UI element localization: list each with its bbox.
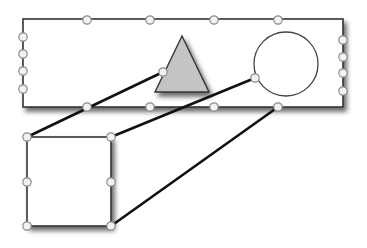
rectangle-right-handle[interactable] xyxy=(339,53,347,61)
square-mid-right-handle[interactable] xyxy=(107,178,115,186)
rectangle-left-handle[interactable] xyxy=(19,50,27,58)
rectangle-top-handle[interactable] xyxy=(146,16,154,24)
rectangle-right-handle[interactable] xyxy=(339,87,347,95)
rectangle-left-handle[interactable] xyxy=(19,85,27,93)
triangle-handle[interactable] xyxy=(159,68,167,76)
rectangle-bottom-handle[interactable] xyxy=(274,103,282,111)
square-top-right-handle[interactable] xyxy=(107,133,115,141)
circle-handle[interactable] xyxy=(251,74,259,82)
rectangle-top-handle[interactable] xyxy=(83,16,91,24)
rectangle-left-handle[interactable] xyxy=(19,67,27,75)
square-bottom-right-handle[interactable] xyxy=(107,222,115,230)
rectangle-bottom-handle[interactable] xyxy=(210,103,218,111)
rectangle-right-handle[interactable] xyxy=(339,69,347,77)
diagram-canvas xyxy=(0,0,367,248)
square-top-left-handle[interactable] xyxy=(23,133,31,141)
square-shape[interactable] xyxy=(27,137,111,226)
rectangle-top-handle[interactable] xyxy=(274,16,282,24)
rectangle-bottom-handle[interactable] xyxy=(83,103,91,111)
rectangle-left-handle[interactable] xyxy=(19,33,27,41)
rectangle-bottom-handle[interactable] xyxy=(146,103,154,111)
square-bottom-left-handle[interactable] xyxy=(23,222,31,230)
square-mid-left-handle[interactable] xyxy=(23,178,31,186)
rectangle-top-handle[interactable] xyxy=(210,16,218,24)
connector-rectangle-to-square[interactable] xyxy=(111,107,278,226)
rectangle-right-handle[interactable] xyxy=(339,36,347,44)
circle-shape[interactable] xyxy=(254,32,318,96)
